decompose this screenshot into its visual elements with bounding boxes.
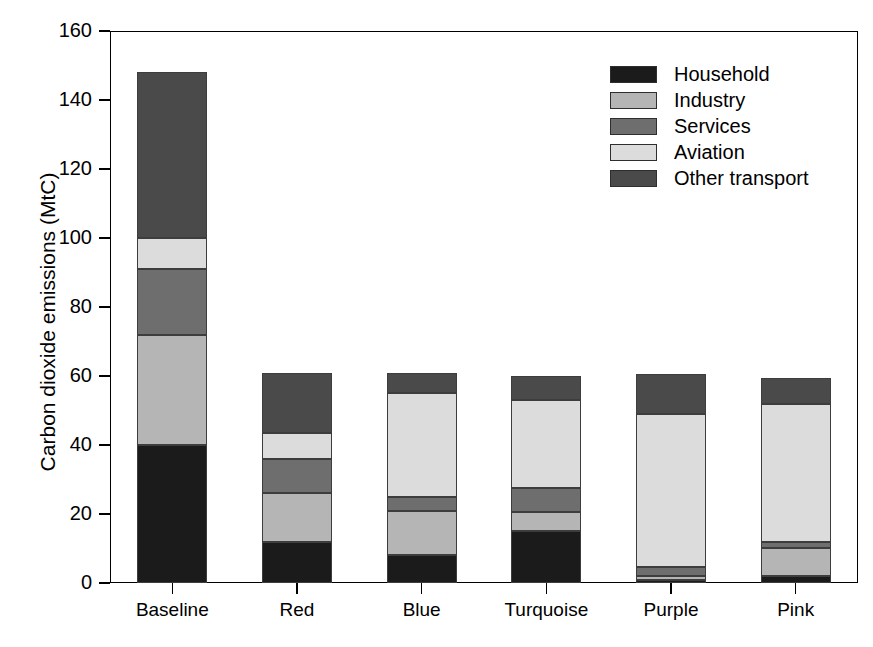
legend-swatch-icon [610, 144, 657, 161]
x-tick-mark [421, 583, 423, 594]
legend-item-household: Household [610, 61, 809, 87]
x-tick-mark [172, 583, 174, 594]
bar-segment-services [511, 488, 581, 512]
bar-segment-household [137, 445, 207, 583]
bar-segment-aviation [262, 433, 332, 459]
y-tick-mark [99, 306, 110, 308]
bar-segment-household [262, 542, 332, 583]
bar-segment-services [761, 542, 831, 549]
bar-segment-other-transport [262, 373, 332, 433]
y-tick-mark [99, 99, 110, 101]
legend-item-services: Services [610, 113, 809, 139]
y-tick-mark [99, 444, 110, 446]
x-tick-mark [670, 583, 672, 594]
y-tick-label: 60 [70, 363, 92, 387]
y-tick-label: 0 [81, 570, 92, 594]
bar-segment-other-transport [137, 72, 207, 238]
bar-turquoise [511, 376, 581, 583]
y-tick-mark [99, 168, 110, 170]
y-tick-label: 140 [59, 87, 92, 111]
chart-legend: HouseholdIndustryServicesAviationOther t… [610, 61, 809, 191]
bar-segment-services [262, 459, 332, 494]
bar-segment-aviation [511, 400, 581, 488]
legend-swatch-icon [610, 66, 657, 83]
bar-red [262, 373, 332, 583]
legend-item-aviation: Aviation [610, 139, 809, 165]
legend-swatch-icon [610, 118, 657, 135]
legend-item-other-transport: Other transport [610, 165, 809, 191]
x-tick-mark [546, 583, 548, 594]
legend-item-industry: Industry [610, 87, 809, 113]
bar-segment-household [761, 576, 831, 583]
bar-segment-other-transport [511, 376, 581, 400]
y-tick-label: 20 [70, 501, 92, 525]
bar-segment-household [511, 531, 581, 583]
legend-label: Aviation [674, 141, 745, 163]
bar-pink [761, 378, 831, 583]
bar-segment-industry [137, 335, 207, 445]
y-tick-mark [99, 375, 110, 377]
bar-segment-aviation [387, 393, 457, 497]
bar-baseline [137, 72, 207, 583]
bar-blue [387, 373, 457, 583]
legend-label: Industry [674, 89, 745, 111]
bar-segment-aviation [761, 404, 831, 542]
legend-label: Other transport [674, 167, 809, 189]
bar-segment-industry [387, 511, 457, 556]
legend-swatch-icon [610, 92, 657, 109]
bar-segment-household [387, 555, 457, 583]
bar-segment-aviation [137, 238, 207, 269]
legend-label: Services [674, 115, 751, 137]
y-tick-mark [99, 30, 110, 32]
y-tick-label: 100 [59, 225, 92, 249]
y-tick-label: 120 [59, 156, 92, 180]
bar-segment-other-transport [636, 374, 706, 414]
legend-label: Household [674, 63, 770, 85]
bar-segment-industry [511, 512, 581, 531]
y-tick-label: 160 [59, 18, 92, 42]
y-tick-label: 80 [70, 294, 92, 318]
y-tick-mark [99, 582, 110, 584]
y-axis-title: Carbon dioxide emissions (MtC) [36, 92, 60, 552]
bar-segment-aviation [636, 414, 706, 568]
bar-segment-industry [761, 548, 831, 576]
x-tick-mark [296, 583, 298, 594]
bar-segment-services [387, 497, 457, 511]
bar-segment-services [137, 269, 207, 335]
bar-segment-household [636, 580, 706, 583]
bar-segment-services [636, 567, 706, 576]
bar-segment-industry [262, 493, 332, 541]
x-tick-mark [795, 583, 797, 594]
stacked-bar-chart: Carbon dioxide emissions (MtC) 020406080… [0, 0, 873, 647]
x-tick-label: Pink [716, 599, 873, 621]
legend-swatch-icon [610, 170, 657, 187]
bar-segment-other-transport [387, 373, 457, 394]
y-tick-label: 40 [70, 432, 92, 456]
bar-segment-other-transport [761, 378, 831, 404]
bar-purple [636, 374, 706, 583]
y-tick-mark [99, 513, 110, 515]
y-tick-mark [99, 237, 110, 239]
